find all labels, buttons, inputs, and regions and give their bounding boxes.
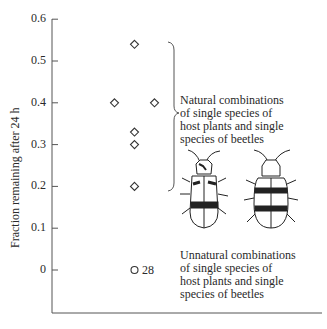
count-label: 28 [142, 263, 154, 278]
natural-line-4: species of beetles [180, 133, 284, 146]
unnatural-line-4: species of beetles [180, 288, 296, 301]
data-points [111, 40, 159, 273]
natural-annotation: Natural combinations of single species o… [180, 94, 284, 146]
y-ticks [52, 19, 58, 270]
diamond-marker [131, 141, 139, 149]
diamond-marker [131, 182, 139, 190]
diamond-marker [131, 128, 139, 136]
y-tick-label: 0.5 [16, 53, 46, 68]
diamond-marker [151, 99, 159, 107]
y-axis-label: Fraction remaining after 24 h [8, 107, 23, 248]
scatter-chart: 00.10.20.30.40.50.6 Fraction remaining a… [0, 0, 327, 329]
y-tick-label: 0 [16, 262, 46, 277]
diamond-marker [131, 40, 139, 48]
beetle-illustration-right [244, 150, 298, 228]
beetle-illustration-left [180, 150, 228, 228]
diamond-marker [111, 99, 119, 107]
unnatural-annotation: Unnatural combinations of single species… [180, 249, 296, 301]
y-tick-label: 0.6 [16, 11, 46, 26]
bracket [168, 42, 179, 191]
circle-marker [131, 267, 138, 274]
